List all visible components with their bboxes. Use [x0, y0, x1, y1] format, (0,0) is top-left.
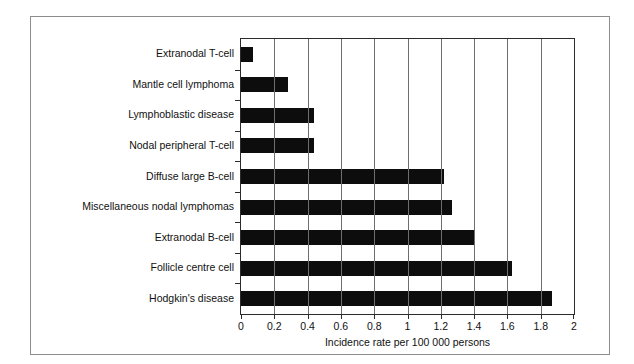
plot-area — [240, 38, 575, 315]
x-axis-tick-labels: 00.20.40.60.811.21.41.61.82 — [240, 320, 575, 334]
gridline — [341, 39, 342, 314]
y-axis-tick — [235, 70, 241, 71]
x-axis-tick-label: 0.8 — [367, 320, 382, 333]
bar — [241, 108, 314, 123]
category-label: Extranodal T-cell — [14, 47, 234, 59]
category-label: Follicle centre cell — [14, 261, 234, 273]
category-label: Hodgkin's disease — [14, 292, 234, 304]
x-axis-tick-label: 1 — [405, 320, 411, 333]
x-axis-tick-label: 0.6 — [334, 320, 349, 333]
bar — [241, 77, 288, 92]
x-axis-tick — [374, 314, 375, 319]
x-axis-tick — [274, 314, 275, 319]
gridline — [507, 39, 508, 314]
x-axis-tick — [507, 314, 508, 319]
gridline — [541, 39, 542, 314]
x-axis-tick — [541, 314, 542, 319]
gridline — [374, 39, 375, 314]
y-axis-tick — [235, 222, 241, 223]
x-axis-tick — [474, 314, 475, 319]
x-axis-tick — [241, 314, 242, 319]
bar — [241, 291, 552, 306]
x-axis-tick — [441, 314, 442, 319]
x-axis-tick-label: 2 — [571, 320, 577, 333]
x-axis-tick-label: 1.2 — [433, 320, 448, 333]
gridline — [274, 39, 275, 314]
figure-page: Extranodal T-cellMantle cell lymphomaLym… — [0, 0, 634, 364]
bar — [241, 261, 512, 276]
x-axis-tick-label: 0.2 — [267, 320, 282, 333]
gridline — [308, 39, 309, 314]
x-axis-title: Incidence rate per 100 000 persons — [240, 336, 575, 349]
category-label: Miscellaneous nodal lymphomas — [14, 200, 234, 212]
category-label: Nodal peripheral T-cell — [14, 139, 234, 151]
y-axis-tick — [235, 192, 241, 193]
x-axis-tick-label: 1.8 — [533, 320, 548, 333]
y-axis-tick — [235, 253, 241, 254]
y-axis-tick — [235, 161, 241, 162]
gridline — [474, 39, 475, 314]
y-axis-tick — [235, 283, 241, 284]
y-axis-tick — [235, 131, 241, 132]
x-axis-tick — [573, 314, 574, 319]
gridline — [441, 39, 442, 314]
category-axis-labels: Extranodal T-cellMantle cell lymphomaLym… — [8, 38, 234, 315]
category-label: Extranodal B-cell — [14, 231, 234, 243]
bar — [241, 47, 253, 62]
category-label: Lymphoblastic disease — [14, 108, 234, 120]
bar — [241, 230, 474, 245]
x-axis-tick — [408, 314, 409, 319]
bar-chart: Extranodal T-cellMantle cell lymphomaLym… — [0, 0, 634, 364]
x-axis-tick — [341, 314, 342, 319]
x-axis-tick-label: 1.4 — [467, 320, 482, 333]
bar — [241, 200, 452, 215]
x-axis-tick-label: 1.6 — [500, 320, 515, 333]
category-label: Mantle cell lymphoma — [14, 78, 234, 90]
y-axis-tick — [235, 100, 241, 101]
gridline — [408, 39, 409, 314]
x-axis-tick — [308, 314, 309, 319]
bar — [241, 138, 314, 153]
x-axis-tick-label: 0 — [238, 320, 244, 333]
x-axis-tick-label: 0.4 — [300, 320, 315, 333]
bar — [241, 169, 444, 184]
category-label: Diffuse large B-cell — [14, 170, 234, 182]
